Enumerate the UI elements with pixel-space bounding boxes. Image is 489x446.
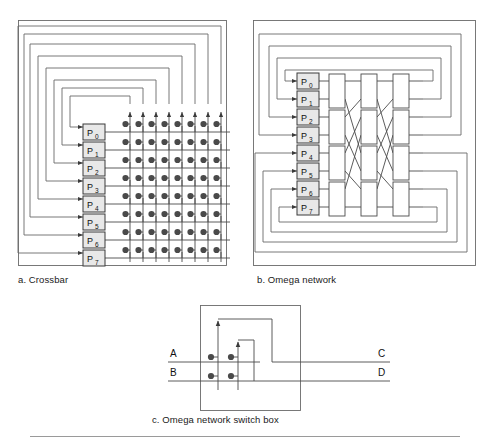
crosspoint-switch[interactable]	[161, 121, 169, 132]
processor-box-p4[interactable]: P4	[83, 196, 105, 212]
crosspoint-switch[interactable]	[174, 211, 182, 222]
crosspoint-switch[interactable]	[135, 211, 143, 222]
crosspoint-switch[interactable]	[213, 121, 221, 132]
omega-switch-s0-p2[interactable]	[329, 146, 345, 180]
processor-box-p4[interactable]: P4	[297, 145, 319, 161]
omega-switch-s2-p2[interactable]	[393, 146, 409, 180]
crosspoint-switch[interactable]	[213, 175, 221, 186]
processor-subscript: 4	[309, 154, 313, 161]
crosspoint-switch[interactable]	[213, 157, 221, 168]
crosspoint-switch[interactable]	[200, 193, 208, 204]
crosspoint-switch[interactable]	[200, 211, 208, 222]
crosspoint-switch[interactable]	[161, 211, 169, 222]
crosspoint-switch[interactable]	[174, 247, 182, 258]
processor-box-p7[interactable]: P7	[297, 199, 319, 215]
crosspoint-switch[interactable]	[200, 139, 208, 150]
crosspoint-switch[interactable]	[174, 121, 182, 132]
crosspoint-switch[interactable]	[122, 211, 130, 222]
crosspoint-switch[interactable]	[200, 247, 208, 258]
crosspoint-switch[interactable]	[122, 175, 130, 186]
omega-switch-s2-p1[interactable]	[393, 110, 409, 144]
crosspoint-switch[interactable]	[187, 211, 195, 222]
crosspoint-switch[interactable]	[135, 157, 143, 168]
crosspoint-switch[interactable]	[174, 193, 182, 204]
processor-label: P	[301, 77, 307, 87]
crosspoint-switch[interactable]	[187, 175, 195, 186]
crosspoint-switch[interactable]	[174, 157, 182, 168]
crosspoint-switch[interactable]	[161, 193, 169, 204]
crosspoint-switch[interactable]	[148, 157, 156, 168]
crosspoint-switch[interactable]	[148, 229, 156, 240]
crosspoint-switch[interactable]	[148, 175, 156, 186]
crosspoint-switch[interactable]	[187, 229, 195, 240]
crosspoint-switch[interactable]	[161, 175, 169, 186]
processor-subscript: 7	[309, 208, 313, 215]
crosspoint-switch[interactable]	[187, 247, 195, 258]
processor-box-p1[interactable]: P1	[297, 91, 319, 107]
processor-box-p1[interactable]: P1	[83, 142, 105, 158]
crosspoint-switch[interactable]	[148, 139, 156, 150]
crosspoint-switch[interactable]	[187, 121, 195, 132]
crosspoint-switch[interactable]	[161, 229, 169, 240]
omega-switch-s0-p0[interactable]	[329, 74, 345, 108]
crosspoint-switch[interactable]	[213, 211, 221, 222]
omega-switch-s1-p1[interactable]	[361, 110, 377, 144]
omega-switch-s1-p0[interactable]	[361, 74, 377, 108]
processor-box-p5[interactable]: P5	[297, 163, 319, 179]
processor-box-p7[interactable]: P7	[83, 250, 105, 266]
crosspoint-switch[interactable]	[122, 229, 130, 240]
crosspoint-switch[interactable]	[213, 229, 221, 240]
processor-box-p5[interactable]: P5	[83, 214, 105, 230]
crossbar-crosspoints	[122, 121, 221, 258]
crosspoint-switch[interactable]	[161, 247, 169, 258]
crosspoint-switch[interactable]	[135, 121, 143, 132]
processor-box-p6[interactable]: P6	[297, 181, 319, 197]
crosspoint-switch[interactable]	[213, 139, 221, 150]
processor-box-p3[interactable]: P3	[83, 178, 105, 194]
crosspoint-switch[interactable]	[148, 247, 156, 258]
crosspoint-switch[interactable]	[122, 139, 130, 150]
omega-switch-s1-p3[interactable]	[361, 182, 377, 216]
panel-omega-network: P0P1P2P3P4P5P6P7	[245, 0, 489, 275]
processor-box-p6[interactable]: P6	[83, 232, 105, 248]
crosspoint-switch[interactable]	[161, 157, 169, 168]
crosspoint-switch[interactable]	[122, 157, 130, 168]
crosspoint-switch[interactable]	[122, 247, 130, 258]
omega-switch-s2-p0[interactable]	[393, 74, 409, 108]
crosspoint-switch[interactable]	[122, 193, 130, 204]
crosspoint-switch[interactable]	[135, 247, 143, 258]
processor-box-p2[interactable]: P2	[83, 160, 105, 176]
crosspoint-switch[interactable]	[122, 121, 130, 132]
crosspoint-switch[interactable]	[187, 157, 195, 168]
processor-box-p3[interactable]: P3	[297, 127, 319, 143]
crosspoint-switch[interactable]	[213, 193, 221, 204]
omega-switch-s0-p1[interactable]	[329, 110, 345, 144]
crosspoint-switch[interactable]	[135, 175, 143, 186]
crosspoint-switch[interactable]	[200, 121, 208, 132]
crosspoint-switch[interactable]	[187, 193, 195, 204]
crosspoint-switch[interactable]	[200, 175, 208, 186]
crosspoint-switch[interactable]	[135, 193, 143, 204]
processor-label: P	[87, 200, 93, 210]
omega-switch-s1-p2[interactable]	[361, 146, 377, 180]
crosspoint-switch[interactable]	[200, 157, 208, 168]
processor-box-p0[interactable]: P0	[297, 73, 319, 89]
crosspoint-switch[interactable]	[174, 175, 182, 186]
processor-box-p2[interactable]: P2	[297, 109, 319, 125]
crosspoint-switch[interactable]	[135, 139, 143, 150]
crosspoint-switch[interactable]	[174, 229, 182, 240]
crosspoint-switch[interactable]	[187, 139, 195, 150]
crossbar-processor-boxes: P0P1P2P3P4P5P6P7	[83, 124, 105, 266]
crosspoint-switch[interactable]	[174, 139, 182, 150]
processor-subscript: 0	[95, 133, 99, 140]
omega-switch-s2-p3[interactable]	[393, 182, 409, 216]
crosspoint-switch[interactable]	[148, 193, 156, 204]
crosspoint-switch[interactable]	[135, 229, 143, 240]
crosspoint-switch[interactable]	[213, 247, 221, 258]
omega-switch-s0-p3[interactable]	[329, 182, 345, 216]
crosspoint-switch[interactable]	[200, 229, 208, 240]
processor-box-p0[interactable]: P0	[83, 124, 105, 140]
crosspoint-switch[interactable]	[148, 121, 156, 132]
crosspoint-switch[interactable]	[148, 211, 156, 222]
crosspoint-switch[interactable]	[161, 139, 169, 150]
